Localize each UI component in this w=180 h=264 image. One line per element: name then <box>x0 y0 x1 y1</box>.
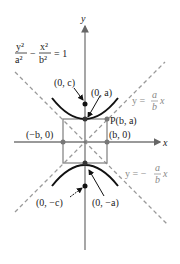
center-dot <box>84 141 87 144</box>
equation: y² a² − x² b² = 1 <box>15 41 67 65</box>
label-vertex-top: (0, a) <box>91 87 112 99</box>
focus-bottom-dot <box>83 184 88 189</box>
svg-text:a²: a² <box>15 54 22 65</box>
label-focus-top: (0, c) <box>54 77 75 89</box>
svg-text:= 1: = 1 <box>54 48 67 59</box>
svg-text:x: x <box>162 168 168 179</box>
right-dot <box>105 140 110 145</box>
vertex-bottom-dot <box>83 161 88 166</box>
label-vertex-bottom: (0, −a) <box>92 197 119 209</box>
svg-text:−: − <box>30 48 36 59</box>
svg-text:b²: b² <box>39 54 47 65</box>
label-left: (−b, 0) <box>26 129 53 141</box>
focus-top-dot <box>83 102 88 107</box>
svg-text:b: b <box>155 174 160 185</box>
left-dot <box>61 140 66 145</box>
svg-text:x²: x² <box>40 41 48 52</box>
vertex-top-dot <box>83 117 88 122</box>
svg-text:a: a <box>152 89 157 100</box>
asymptote-pos-label: y = a b x <box>132 89 165 112</box>
corner-dot <box>105 117 110 122</box>
svg-text:y = −: y = − <box>125 168 147 179</box>
x-axis-label: x <box>162 137 168 148</box>
svg-text:y =: y = <box>132 95 146 106</box>
svg-text:a: a <box>155 162 160 173</box>
svg-text:b: b <box>152 101 157 112</box>
asymptote-neg-label: y = − a b x <box>125 162 168 185</box>
label-focus-bottom: (0, −c) <box>36 197 63 209</box>
hyperbola-diagram: y² a² − x² b² = 1 y x (0, c) (0, a) P(b,… <box>0 0 180 264</box>
y-axis-label: y <box>80 13 86 24</box>
svg-text:x: x <box>159 95 165 106</box>
label-right: (b, 0) <box>109 129 131 141</box>
label-corner: P(b, a) <box>110 115 137 127</box>
svg-text:y²: y² <box>16 41 24 52</box>
